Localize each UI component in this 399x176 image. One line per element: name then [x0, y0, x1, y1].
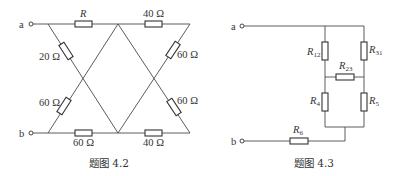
resistor-R4-sub: 4: [316, 100, 320, 108]
resistor-bottom-left: [75, 130, 92, 136]
resistor-R23-sub: 23: [345, 65, 353, 73]
resistor-R31-label: R31: [368, 44, 383, 57]
terminal-b-label: b: [231, 136, 236, 147]
terminal-b-label: b: [19, 128, 24, 139]
resistor-R6-sub: 6: [299, 129, 303, 137]
resistor-R12-sub: 12: [313, 51, 321, 59]
figure-4-3: a b R12 R31 R23 R4 R5 R6 题图 4.3: [231, 21, 383, 169]
resistor-top-right: [145, 21, 162, 27]
resistor-R6-label: R6: [292, 124, 303, 137]
resistor-top-right-label: 40 Ω: [143, 8, 164, 19]
resistor-left-upper: [59, 42, 73, 60]
resistor-R12: [322, 42, 328, 60]
resistor-left-upper-label: 20 Ω: [39, 51, 60, 62]
resistor-R: [75, 21, 92, 27]
resistor-left-lower-label: 60 Ω: [39, 97, 60, 108]
resistor-bottom-right-label: 40 Ω: [143, 137, 164, 148]
resistor-R31-sub: 31: [375, 49, 383, 57]
resistor-R5-label: R5: [368, 95, 379, 108]
resistor-R23: [336, 74, 354, 80]
resistor-bottom-right: [145, 130, 162, 136]
terminal-a: [29, 22, 33, 26]
resistor-bottom-left-label: 60 Ω: [73, 137, 94, 148]
resistor-R6: [290, 138, 308, 144]
terminal-b: [240, 139, 244, 143]
resistor-R-label: R: [79, 8, 87, 19]
resistor-R4-label: R4: [309, 95, 320, 108]
figure-caption: 题图 4.2: [89, 157, 129, 169]
figure-caption: 题图 4.3: [294, 157, 334, 169]
terminal-b: [29, 131, 33, 135]
figure-4-2: a b R 40 Ω 60 Ω 40 Ω 20 Ω 60 Ω 60 Ω 60 Ω…: [19, 8, 198, 169]
resistor-right-lower-label: 60 Ω: [177, 95, 198, 106]
terminal-a-label: a: [19, 19, 24, 30]
resistor-R4: [322, 93, 328, 111]
terminal-a: [240, 24, 244, 28]
resistor-R23-label: R23: [338, 60, 353, 73]
resistor-R5-sub: 5: [375, 100, 379, 108]
resistor-R31: [361, 42, 367, 60]
resistor-R5: [361, 93, 367, 111]
resistor-right-upper-label: 60 Ω: [177, 49, 198, 60]
terminal-a-label: a: [231, 21, 236, 32]
resistor-R12-label: R12: [306, 46, 321, 59]
circuit-diagrams: a b R 40 Ω 60 Ω 40 Ω 20 Ω 60 Ω 60 Ω 60 Ω…: [0, 0, 399, 176]
